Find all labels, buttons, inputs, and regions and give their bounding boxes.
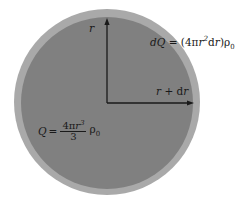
total-charge-rho-group: ρ0 <box>89 124 100 138</box>
total-charge-formula: Q = 4πr3 3 ρ0 <box>38 120 100 142</box>
radius-outer-label: r + dr <box>156 86 188 97</box>
shell-charge-rho-subscript: 0 <box>230 43 234 51</box>
total-charge-numerator-coefficient: 4π <box>62 120 75 131</box>
shell-charge-open: (4π <box>181 36 199 48</box>
radius-inner-label: r <box>89 23 94 34</box>
shell-charge-equals: = <box>169 36 178 48</box>
total-charge-Q: Q <box>38 126 47 137</box>
shell-charge-formula: dQ = (4πr2dr)ρ0 <box>150 35 235 51</box>
diagram-canvas <box>0 0 246 206</box>
shell-charge-differential-d: d <box>208 36 215 48</box>
total-charge-equals: = <box>49 126 58 137</box>
total-charge-numerator: 4πr3 <box>60 120 86 131</box>
shell-charge-Q: Q <box>157 36 166 48</box>
total-charge-denominator: 3 <box>68 132 78 142</box>
total-charge-numerator-exponent: 3 <box>80 119 84 127</box>
total-charge-fraction: 4πr3 3 <box>60 120 86 142</box>
total-charge-rho-subscript: 0 <box>96 130 100 138</box>
radius-outer-plus: + <box>164 85 173 97</box>
radius-outer-differential-r: r <box>183 85 188 97</box>
radius-outer-r: r <box>156 85 161 97</box>
sphere-charge-diagram: r dQ = (4πr2dr)ρ0 r + dr Q = 4πr3 3 ρ0 <box>0 0 246 206</box>
shell-charge-d: d <box>150 36 157 48</box>
